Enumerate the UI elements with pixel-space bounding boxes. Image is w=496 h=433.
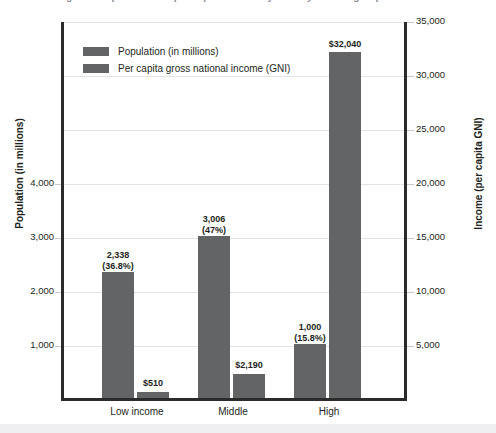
- bar-label-high-population: 1,000 (15.8%): [294, 322, 326, 344]
- chart-figure: Figure 1 Population and per capita incom…: [0, 0, 496, 433]
- right-tick-35000: 35,000: [416, 15, 445, 26]
- left-tick-4000: 4,000: [30, 177, 54, 188]
- bar-high-population[interactable]: [294, 344, 326, 398]
- right-tick-30000: 30,000: [416, 69, 445, 80]
- bar-percent-high-population: (15.8%): [294, 333, 326, 343]
- right-tickmark-35000: [407, 22, 414, 23]
- bar-middle-gni[interactable]: [233, 374, 265, 398]
- bar-label-low-income-gni: $510: [143, 378, 163, 389]
- bar-value-low-income-population: 2,338: [107, 250, 130, 260]
- chart-legend: Population (in millions) Per capita gros…: [83, 44, 323, 78]
- xlabel-middle: Middle: [218, 406, 247, 417]
- right-tickmark-5000: [407, 346, 414, 347]
- left-tick-2000: 2,000: [30, 285, 54, 296]
- xlabel-high: High: [319, 406, 340, 417]
- cropped-title-strip: Figure 1 Population and per capita incom…: [0, 0, 496, 7]
- right-tickmark-30000: [407, 76, 414, 77]
- left-tickmark-4000: [55, 184, 61, 185]
- left-tickmark-1000: [55, 346, 61, 347]
- bottom-axis-spine: [61, 398, 407, 401]
- right-tickmark-20000: [407, 184, 414, 185]
- legend-item-gni: Per capita gross national income (GNI): [83, 61, 323, 75]
- right-axis-spine: [404, 22, 407, 401]
- left-tick-1000: 1,000: [30, 339, 54, 350]
- right-tick-25000: 25,000: [416, 123, 445, 134]
- legend-swatch-population: [83, 47, 109, 56]
- bar-label-low-income-population: 2,338 (36.8%): [102, 250, 134, 272]
- bar-percent-middle-population: (47%): [202, 225, 226, 235]
- legend-label-population: Population (in millions): [118, 46, 219, 57]
- bar-value-middle-population: 3,006: [203, 214, 226, 224]
- right-tick-5000: 5,000: [416, 339, 440, 350]
- left-tickmark-2000: [55, 292, 61, 293]
- left-axis-spine: [61, 22, 64, 401]
- bottom-page-band: [0, 424, 496, 433]
- right-tick-20000: 20,000: [416, 177, 445, 188]
- left-tick-3000: 3,000: [30, 231, 54, 242]
- xlabel-low-income: Low income: [110, 406, 163, 417]
- legend-item-population: Population (in millions): [83, 44, 323, 58]
- right-tickmark-25000: [407, 130, 414, 131]
- right-axis-title: Income (per capita GNI): [473, 84, 484, 264]
- right-tickmark-10000: [407, 292, 414, 293]
- bar-low-income-population[interactable]: [102, 272, 134, 398]
- legend-label-gni: Per capita gross national income (GNI): [118, 63, 290, 74]
- bar-low-income-gni[interactable]: [137, 392, 169, 398]
- gridline-35000: [64, 22, 404, 23]
- bar-value-high-population: 1,000: [299, 322, 322, 332]
- bar-label-middle-gni: $2,190: [235, 360, 263, 371]
- bar-percent-low-income-population: (36.8%): [102, 261, 134, 271]
- bar-label-middle-population: 3,006 (47%): [202, 214, 226, 236]
- right-tickmark-15000: [407, 238, 414, 239]
- left-axis-tick-labels: 1,000 2,000 3,000 4,000: [0, 22, 54, 401]
- bar-label-high-gni: $32,040: [329, 39, 362, 50]
- left-tickmark-3000: [55, 238, 61, 239]
- legend-swatch-gni: [83, 64, 109, 73]
- left-axis-title: Population (in millions): [14, 94, 25, 254]
- bar-high-gni[interactable]: [329, 52, 361, 398]
- bar-middle-population[interactable]: [198, 236, 230, 398]
- plot-area: Population (in millions) Per capita gros…: [61, 22, 406, 401]
- right-tick-15000: 15,000: [416, 231, 445, 242]
- right-tick-10000: 10,000: [416, 285, 445, 296]
- right-axis-tick-labels: 5,000 10,000 15,000 20,000 25,000 30,000…: [416, 22, 476, 401]
- chart-title: Figure 1 Population and per capita incom…: [57, 0, 382, 2]
